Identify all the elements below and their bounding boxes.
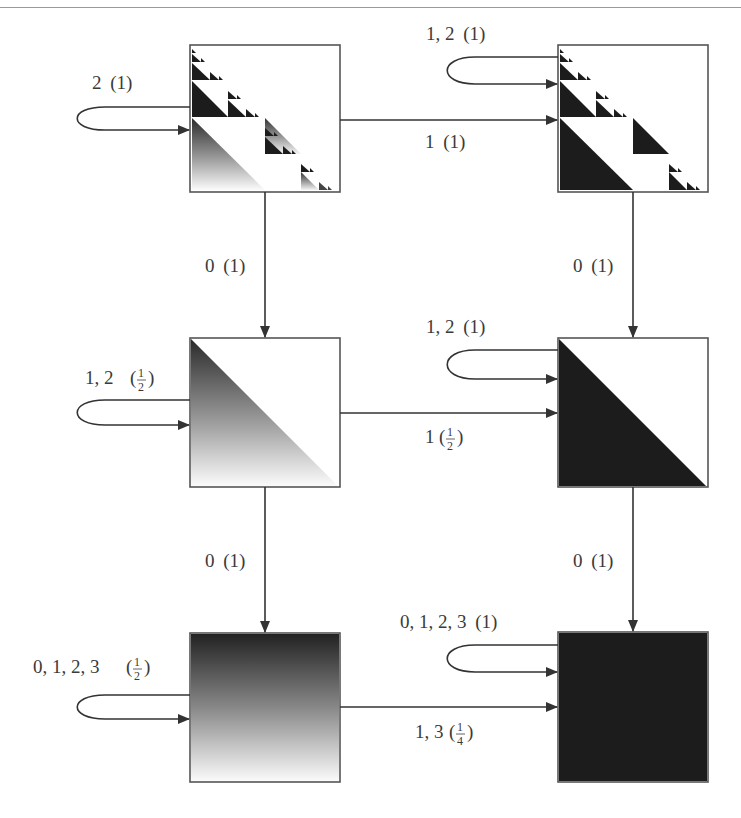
svg-text:(: ( bbox=[449, 721, 455, 743]
label-loop-mid-right: 1, 2 (1) bbox=[426, 316, 485, 338]
label-loop-mid-left: 1, 2 ( 1 2 ) bbox=[85, 366, 154, 394]
svg-text:1, 3: 1, 3 bbox=[415, 721, 444, 742]
label-loop-top-left: 2 (1) bbox=[92, 72, 132, 94]
svg-text:(: ( bbox=[130, 367, 136, 389]
svg-text:2: 2 bbox=[447, 439, 453, 453]
svg-text:): ) bbox=[148, 367, 154, 389]
svg-text:): ) bbox=[467, 721, 473, 743]
svg-text:1: 1 bbox=[138, 366, 144, 380]
svg-text:): ) bbox=[457, 426, 463, 448]
state-diagram: 2 (1) 1, 2 (1) 1 (1) 0 (1) 0 (1) 1, 2 ( … bbox=[0, 0, 741, 818]
svg-text:1, 2: 1, 2 bbox=[85, 367, 114, 388]
state-mid-left bbox=[190, 338, 340, 487]
label-loop-top-right: 1, 2 (1) bbox=[426, 23, 485, 45]
svg-text:1: 1 bbox=[134, 655, 140, 669]
svg-text:): ) bbox=[144, 656, 150, 678]
state-top-left bbox=[190, 45, 340, 192]
loop-arrow-bot-left bbox=[77, 695, 190, 719]
label-bot-horizontal: 1, 3 ( 1 4 ) bbox=[415, 720, 473, 748]
label-left-down-2: 0 (1) bbox=[205, 550, 245, 572]
label-left-down-1: 0 (1) bbox=[205, 255, 245, 277]
svg-text:0, 1, 2, 3: 0, 1, 2, 3 bbox=[33, 656, 100, 677]
loop-arrow-top-left bbox=[77, 107, 190, 130]
svg-text:1: 1 bbox=[447, 425, 453, 439]
state-top-right bbox=[558, 45, 708, 192]
label-top-horizontal: 1 (1) bbox=[425, 131, 465, 153]
label-loop-bot-right: 0, 1, 2, 3 (1) bbox=[400, 611, 497, 633]
svg-text:1: 1 bbox=[457, 720, 463, 734]
label-right-down-1: 0 (1) bbox=[573, 255, 613, 277]
svg-text:1: 1 bbox=[425, 426, 435, 447]
svg-text:(: ( bbox=[439, 426, 445, 448]
loop-arrow-top-right bbox=[447, 57, 558, 84]
loop-arrow-mid-left bbox=[77, 400, 190, 425]
label-right-down-2: 0 (1) bbox=[573, 550, 613, 572]
svg-text:2: 2 bbox=[138, 380, 144, 394]
state-bot-left bbox=[190, 633, 340, 782]
svg-text:2: 2 bbox=[134, 669, 140, 683]
state-bot-right bbox=[558, 632, 708, 782]
svg-text:(: ( bbox=[126, 656, 132, 678]
svg-text:4: 4 bbox=[457, 734, 463, 748]
label-mid-horizontal: 1 ( 1 2 ) bbox=[425, 425, 463, 453]
label-loop-bot-left: 0, 1, 2, 3 ( 1 2 ) bbox=[33, 655, 150, 683]
loop-arrow-bot-right bbox=[447, 645, 558, 672]
loop-arrow-mid-right bbox=[447, 350, 558, 379]
state-mid-right bbox=[558, 338, 708, 487]
